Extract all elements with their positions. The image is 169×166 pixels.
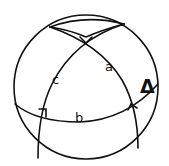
side-label-b: b	[75, 110, 83, 125]
back-arc-top	[50, 20, 124, 27]
great-circle-c	[38, 24, 124, 158]
great-circle-b	[15, 84, 158, 122]
great-circle-a	[50, 27, 138, 148]
sphere-diagram: c a b Δ	[0, 0, 169, 166]
side-label-c: c	[52, 72, 59, 87]
side-label-a: a	[105, 59, 113, 74]
triangle-symbol: Δ	[140, 75, 155, 97]
